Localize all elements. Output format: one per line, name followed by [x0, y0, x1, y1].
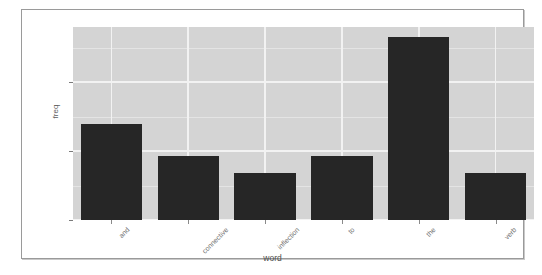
x-axis-tick-mark: [419, 220, 420, 224]
bar: [311, 156, 372, 220]
x-axis-tick-mark: [496, 220, 497, 224]
x-axis-tick-label: the: [425, 226, 437, 238]
x-axis-tick-mark: [342, 220, 343, 224]
bars-layer: [73, 27, 534, 220]
x-axis-tick-label: to: [347, 226, 356, 235]
x-axis-tick-label: connective: [201, 226, 230, 255]
x-axis-tick-mark: [265, 220, 266, 224]
plot-panel: [73, 27, 534, 220]
y-axis-tick-mark: [69, 151, 73, 152]
bar: [234, 173, 295, 220]
x-axis-tick-mark: [188, 220, 189, 224]
x-axis-tick-label: verb: [503, 226, 518, 241]
figure-frame: 02040 freq andconnectiveinflectiontothev…: [21, 9, 524, 259]
bar: [465, 173, 526, 220]
x-axis-tick-label: and: [118, 226, 131, 239]
x-axis-tick-label: inflection: [276, 226, 300, 250]
bar: [81, 124, 142, 221]
y-axis-title: freq: [51, 105, 60, 119]
bar: [158, 156, 219, 220]
x-axis-tick-mark: [111, 220, 112, 224]
y-axis-tick-mark: [69, 82, 73, 83]
y-axis-tick-mark: [69, 220, 73, 221]
x-axis-title: word: [22, 253, 523, 263]
bar: [388, 37, 449, 220]
